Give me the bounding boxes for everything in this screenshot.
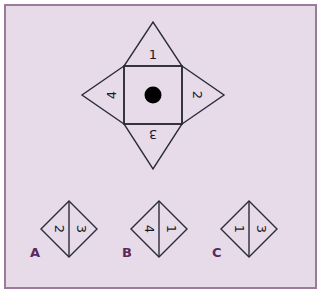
option-b-label: B <box>122 246 132 259</box>
option-c-label: C <box>212 246 222 259</box>
option-b-right-number: 1 <box>164 225 179 233</box>
option-b-svg: 4 1 <box>128 198 190 260</box>
flap-right-number: 2 <box>190 91 205 99</box>
main-figure: 1 2 3 4 <box>74 14 234 178</box>
option-c-svg: 1 3 <box>218 198 280 260</box>
dot-marker <box>145 87 162 104</box>
option-a-right-number: 3 <box>74 225 89 233</box>
main-figure-svg: 1 2 3 4 <box>74 14 234 178</box>
option-a-label: A <box>30 246 40 259</box>
flap-top-number: 1 <box>149 47 157 62</box>
option-b[interactable]: 4 1 <box>128 198 190 260</box>
option-a[interactable]: 2 3 <box>38 198 100 260</box>
option-a-left-number: 2 <box>52 225 67 233</box>
option-a-svg: 2 3 <box>38 198 100 260</box>
option-c-left-number: 1 <box>232 225 247 233</box>
puzzle-image: 1 2 3 4 2 3 A 4 1 B 1 3 C <box>0 0 321 293</box>
flap-left-number: 4 <box>104 91 119 99</box>
option-c-right-number: 3 <box>254 225 269 233</box>
flap-bottom-number: 3 <box>149 127 157 142</box>
option-c[interactable]: 1 3 <box>218 198 280 260</box>
option-b-left-number: 4 <box>142 225 157 233</box>
